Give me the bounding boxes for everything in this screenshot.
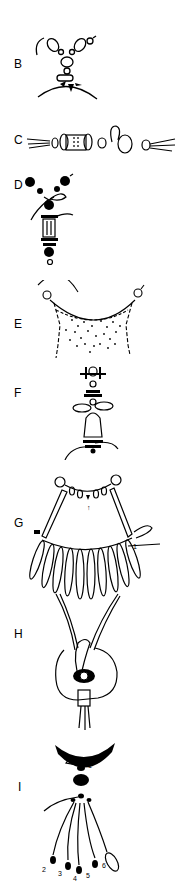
tassel-pendant-i-icon: 1 2 3 4 5 6 [0,735,176,884]
panel-c-illustration [0,122,176,158]
step-label-i-5: 5 [86,872,90,879]
step-label-i-3: 3 [58,870,62,877]
panel-i-illustration: 1 2 3 4 5 6 [0,735,176,884]
netted-bib-e-icon [0,280,176,360]
bead-cord-c-icon [0,122,176,158]
panel-b-illustration [0,25,176,105]
step-label-i-4: 4 [73,875,77,882]
step-label-g-2: 1 [133,543,137,550]
disc-pendant-h-icon [0,592,176,732]
step-label-g-1: ↑ [87,504,91,511]
step-label-i-1: 1 [88,762,92,769]
necklace-b-icon [0,25,176,105]
step-label-i-2: 2 [42,866,46,873]
panel-g-illustration: ↑ 1 [0,470,176,600]
bell-pendant-f-icon [0,360,176,460]
panel-d-illustration [0,170,176,270]
panel-f-illustration [0,360,176,460]
step-label-i-6: 6 [102,862,106,869]
pendant-d-icon [0,170,176,270]
panel-h-illustration [0,592,176,732]
fringe-collar-g-icon: ↑ 1 [0,470,176,600]
panel-e-illustration [0,280,176,360]
